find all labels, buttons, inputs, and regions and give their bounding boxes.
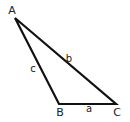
side-label-b: b [66,53,72,64]
triangle-diagram: A B C a b c [0,0,130,122]
vertex-label-b: B [56,106,64,119]
side-label-c: c [30,63,36,74]
side-label-a: a [86,103,92,114]
vertex-label-a: A [8,4,16,17]
vertex-label-c: C [113,106,121,119]
